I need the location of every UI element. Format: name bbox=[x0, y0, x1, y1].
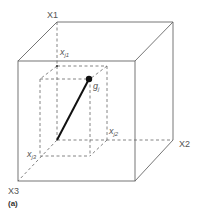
coord-label-xj3: xj3 bbox=[26, 149, 37, 160]
point-gj bbox=[86, 76, 92, 82]
coord-label-xj2: xj2 bbox=[108, 126, 119, 137]
point-label-gj: gj bbox=[93, 81, 100, 92]
figure-caption: (a) bbox=[8, 199, 18, 208]
axis-label-x1: X1 bbox=[47, 10, 58, 20]
inner-dashed-box bbox=[40, 66, 107, 156]
coord-label-xj1: xj1 bbox=[59, 47, 69, 58]
outer-cube bbox=[18, 22, 173, 181]
vector-space-diagram: X1 X2 X3 xj1 xj2 xj3 gj (a) bbox=[0, 0, 197, 217]
vector-line bbox=[57, 79, 89, 140]
tick-xj1 bbox=[56, 65, 58, 67]
axis-label-x3: X3 bbox=[8, 186, 19, 196]
axis-label-x2: X2 bbox=[179, 139, 190, 149]
